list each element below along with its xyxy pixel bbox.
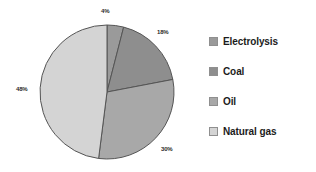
legend-item-electrolysis: Electrolysis — [209, 34, 278, 48]
legend-label-natural-gas: Natural gas — [223, 126, 276, 137]
legend-swatch-natural-gas — [209, 127, 218, 136]
chart-plot-area: 4% 18% 30% 48% — [0, 0, 200, 172]
legend-swatch-oil — [209, 97, 218, 106]
legend-item-natural-gas: Natural gas — [209, 124, 276, 138]
legend-item-coal: Coal — [209, 64, 244, 78]
pie-label-oil: 30% — [161, 146, 172, 152]
legend-swatch-coal — [209, 67, 218, 76]
legend-label-oil: Oil — [223, 96, 236, 107]
pie-label-coal: 18% — [157, 29, 168, 35]
pie-chart-figure: 4% 18% 30% 48% Electrolysis Coal Oil Nat… — [0, 0, 316, 172]
legend-label-coal: Coal — [223, 66, 244, 77]
chart-legend: Electrolysis Coal Oil Natural gas — [209, 28, 313, 154]
legend-item-oil: Oil — [209, 94, 236, 108]
legend-label-electrolysis: Electrolysis — [223, 36, 278, 47]
pie-slice-natural-gas — [40, 25, 107, 158]
pie-label-electrolysis: 4% — [101, 8, 109, 14]
legend-swatch-electrolysis — [209, 37, 218, 46]
pie-label-natural-gas: 48% — [16, 86, 27, 92]
